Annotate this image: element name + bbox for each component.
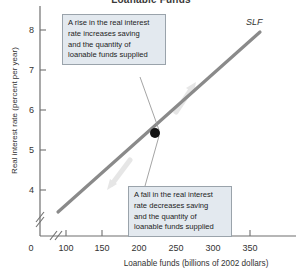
equilibrium-point [150, 128, 160, 138]
rise-callout-line-4: loanable funds supplied [68, 50, 161, 61]
rise-callout: A rise in the real interest rate increas… [62, 14, 166, 65]
slf-curve-label: SLF [246, 17, 263, 27]
fall-callout: A fall in the real interest rate decreas… [128, 186, 232, 237]
fall-callout-line-1: A fall in the real interest [134, 190, 227, 201]
rise-callout-line-3: and the quantity of [68, 40, 161, 51]
fall-callout-line-2: rate decreases saving [134, 201, 227, 212]
fall-callout-line-4: loanable funds supplied [134, 222, 227, 233]
rise-callout-line-2: rate increases saving [68, 29, 161, 40]
chart-figure: Loanable Funds Real interest rate (perce… [0, 0, 302, 274]
fall-callout-leader [145, 136, 159, 186]
fall-callout-line-3: and the quantity of [134, 212, 227, 223]
y-tick-marks [40, 30, 46, 190]
rise-callout-line-1: A rise in the real interest [68, 18, 161, 29]
rise-callout-leader [140, 77, 159, 130]
